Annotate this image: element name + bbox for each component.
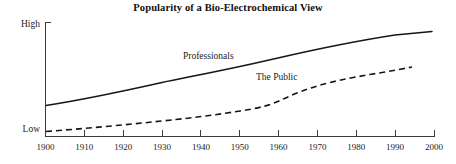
- x-axis-tick-label-1950: 1950: [231, 142, 249, 152]
- x-axis-tick-label-1900: 1900: [37, 142, 55, 152]
- x-axis-tick-label-1960: 1960: [270, 142, 288, 152]
- x-axis-tick-label-1930: 1930: [153, 142, 171, 152]
- x-axis-tick-label-1990: 1990: [386, 142, 404, 152]
- x-axis-tick-label-1980: 1980: [347, 142, 365, 152]
- series-annotation-the-public: The Public: [256, 72, 297, 82]
- plot-area: [0, 0, 456, 164]
- y-axis-label-low: Low: [6, 124, 40, 134]
- x-axis-tick-label-1970: 1970: [308, 142, 326, 152]
- x-axis-tick-label-1940: 1940: [192, 142, 210, 152]
- chart-figure: Popularity of a Bio-Electrochemical View: [0, 0, 456, 164]
- y-axis-label-high: High: [6, 19, 40, 29]
- series-line-professionals: [46, 32, 432, 106]
- x-axis-tick-label-1920: 1920: [114, 142, 132, 152]
- x-axis-tick-label-2000: 2000: [425, 142, 443, 152]
- x-axis-ticks: [46, 130, 435, 137]
- series-line-the-public: [46, 67, 412, 132]
- series-annotation-professionals: Professionals: [183, 51, 234, 61]
- x-axis-tick-label-1910: 1910: [75, 142, 93, 152]
